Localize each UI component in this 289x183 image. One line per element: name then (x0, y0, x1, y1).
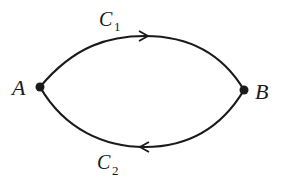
label-a: A (10, 75, 26, 100)
label-c1-subscript: 1 (114, 19, 121, 34)
label-c2-subscript: 2 (112, 163, 119, 178)
point-b-dot (240, 86, 249, 95)
label-b: B (255, 79, 268, 104)
label-c1: C (99, 8, 113, 30)
label-c2: C (97, 151, 111, 173)
point-a-dot (36, 83, 45, 92)
closed-path-diagram: A B C 1 C 2 (0, 0, 289, 183)
curve-c1 (40, 36, 244, 90)
curve-c2 (40, 87, 244, 147)
